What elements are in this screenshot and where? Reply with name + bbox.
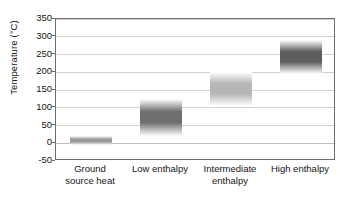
plot-area xyxy=(55,18,335,160)
y-tick-label-50: 50 xyxy=(18,120,52,130)
x-axis-label-1: Groundsource heat xyxy=(55,163,125,186)
x-label-line: Low enthalpy xyxy=(125,163,195,175)
x-label-line: enthalpy xyxy=(195,175,265,187)
gridline-350 xyxy=(56,19,334,20)
x-label-line: source heat xyxy=(55,175,125,187)
y-tick-label-250: 250 xyxy=(18,49,52,59)
x-axis-label-4: High enthalpy xyxy=(265,163,335,175)
y-tick-label--50: -50 xyxy=(18,155,52,165)
bar-band-1 xyxy=(70,136,112,145)
y-axis-title: Temperature (°C) xyxy=(8,0,19,123)
temperature-range-chart: Temperature (°C) 350300250200150100500-5… xyxy=(0,0,347,199)
gridline-50 xyxy=(56,125,334,126)
y-tick-label-100: 100 xyxy=(18,102,52,112)
x-label-line: Intermediate xyxy=(195,163,265,175)
gridline-150 xyxy=(56,90,334,91)
bar-band-2 xyxy=(140,99,182,136)
x-label-line: Ground xyxy=(55,163,125,175)
x-axis-labels: Groundsource heatLow enthalpyIntermediat… xyxy=(55,163,335,197)
y-tick-label-300: 300 xyxy=(18,31,52,41)
x-label-line: High enthalpy xyxy=(265,163,335,175)
gridline-300 xyxy=(56,36,334,37)
gridline-100 xyxy=(56,107,334,108)
bar-band-4 xyxy=(280,40,322,74)
y-tick-label-150: 150 xyxy=(18,84,52,94)
y-tick-label-350: 350 xyxy=(18,13,52,23)
x-axis-label-2: Low enthalpy xyxy=(125,163,195,175)
y-tick-label-200: 200 xyxy=(18,66,52,76)
x-axis-label-3: Intermediateenthalpy xyxy=(195,163,265,186)
bar-band-3 xyxy=(210,72,252,106)
y-tick-label-0: 0 xyxy=(18,137,52,147)
